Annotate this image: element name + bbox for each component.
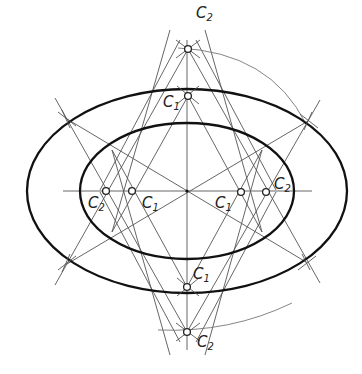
ellipse-construction-diagram: C2C1C2C1C1C2C1C2 (0, 0, 362, 374)
construction-line (196, 40, 276, 190)
c1-bottom-point (184, 284, 191, 291)
c2-bottom-point (184, 329, 191, 336)
c1-left-label: C1 (142, 194, 159, 213)
center-dot (185, 189, 188, 192)
c1-right-point (238, 189, 245, 196)
c1-bottom-label: C1 (193, 265, 210, 284)
c2-right-point (263, 189, 270, 196)
c1-top-label: C1 (163, 93, 180, 112)
construction-line (188, 49, 320, 283)
construction-line (112, 30, 170, 232)
c1-left-point (129, 188, 136, 195)
c1-right-label: C1 (215, 194, 232, 213)
construction-line (196, 192, 276, 342)
c2-right-label: C2 (274, 175, 291, 194)
c1-top-point (185, 93, 192, 100)
c2-bottom-label: C2 (197, 333, 214, 352)
c2-left-point (103, 188, 110, 195)
construction-line (100, 40, 180, 190)
c2-top-label: C2 (196, 4, 213, 23)
c2-top-point (185, 46, 192, 53)
construction-line (100, 192, 180, 342)
